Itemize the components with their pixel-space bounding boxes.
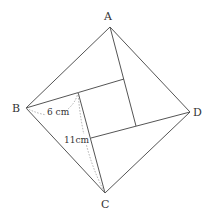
- label-c: C: [101, 198, 109, 211]
- label-d: D: [193, 106, 202, 119]
- label-11cm: 11cm: [64, 135, 89, 145]
- segment-a-inner: [110, 27, 136, 126]
- geometry-diagram: A B C D 6 cm 11cm: [0, 0, 213, 220]
- label-6cm: 6 cm: [47, 107, 70, 117]
- label-a: A: [103, 10, 113, 23]
- segment-d-inner: [91, 112, 190, 138]
- label-b: B: [12, 102, 20, 115]
